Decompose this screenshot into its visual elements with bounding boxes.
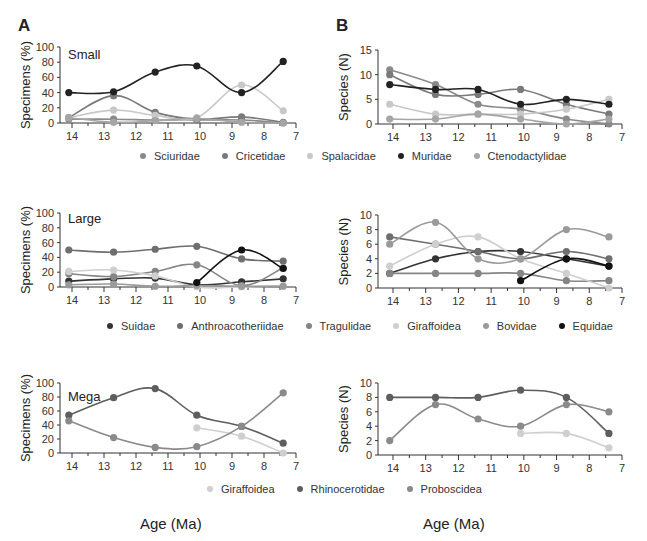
x-tick-label: 13 xyxy=(98,460,110,472)
data-point xyxy=(517,387,524,394)
x-tick-label: 9 xyxy=(229,130,235,142)
x-tick-label: 14 xyxy=(387,462,399,474)
x-tick-label: 14 xyxy=(387,131,399,143)
data-point xyxy=(474,248,481,255)
x-tick-label: 11 xyxy=(162,460,173,472)
x-tick-label: 14 xyxy=(66,294,78,306)
y-tick-label: 4 xyxy=(366,420,372,432)
y-tick-label: 100 xyxy=(36,377,54,389)
data-point xyxy=(517,277,524,284)
x-tick-label: 7 xyxy=(293,460,299,472)
legend-marker-icon xyxy=(474,153,480,159)
legend-item: Anthroacotheriidae xyxy=(177,320,283,332)
data-point xyxy=(193,412,200,419)
y-tick-label: 40 xyxy=(42,87,54,99)
y-tick-label: 0 xyxy=(366,449,372,461)
data-point xyxy=(238,433,245,440)
data-point xyxy=(605,115,612,122)
y-tick-label: 40 xyxy=(42,251,54,263)
legend-item: Giraffoidea xyxy=(207,483,275,495)
legend-marker-icon xyxy=(398,153,404,159)
data-point xyxy=(193,424,200,431)
data-point xyxy=(280,58,287,65)
data-point xyxy=(238,246,245,253)
data-point xyxy=(193,279,200,286)
data-point xyxy=(605,408,612,415)
legend-small: SciuridaeCricetidaeSpalacidaeMuridaeCten… xyxy=(140,150,588,162)
x-tick-label: 9 xyxy=(229,460,235,472)
legend-marker-icon xyxy=(393,323,399,329)
x-tick-label: 10 xyxy=(518,295,530,307)
y-tick-label: 10 xyxy=(360,69,372,81)
data-point xyxy=(152,385,159,392)
x-tick-label: 12 xyxy=(130,294,142,306)
legend-marker-icon xyxy=(307,153,313,159)
data-point xyxy=(65,89,72,96)
y-tick-label: 6 xyxy=(366,406,372,418)
x-tick-label: 8 xyxy=(586,131,592,143)
y-tick-label: 100 xyxy=(36,207,54,219)
y-tick-label: 100 xyxy=(36,41,54,53)
data-point xyxy=(386,71,393,78)
data-point xyxy=(280,275,287,282)
data-point xyxy=(563,226,570,233)
legend-item: Cricetidae xyxy=(222,150,286,162)
data-point xyxy=(110,394,117,401)
legend-marker-icon xyxy=(177,323,183,329)
x-tick-label: 9 xyxy=(554,131,560,143)
x-tick-label: 11 xyxy=(162,130,173,142)
legend-marker-icon xyxy=(483,323,489,329)
data-point xyxy=(474,86,481,93)
y-tick-label: 5 xyxy=(366,93,372,105)
x-tick-label: 13 xyxy=(420,131,432,143)
legend-item: Proboscidea xyxy=(407,483,482,495)
series-line xyxy=(69,96,283,123)
figure-canvas: 0204060801001413121110987Specimens (%)Sm… xyxy=(0,0,647,541)
legend-marker-icon xyxy=(207,486,213,492)
data-point xyxy=(238,119,245,126)
x-tick-label: 8 xyxy=(586,295,592,307)
x-tick-label: 10 xyxy=(518,462,530,474)
series-line xyxy=(390,251,609,274)
x-axis-label-b: Age (Ma) xyxy=(423,515,485,532)
data-point xyxy=(110,106,117,113)
data-point xyxy=(238,81,245,88)
legend-marker-icon xyxy=(306,323,312,329)
data-point xyxy=(280,449,287,456)
x-tick-label: 8 xyxy=(261,130,267,142)
y-tick-label: 6 xyxy=(366,238,372,250)
y-tick-label: 0 xyxy=(48,281,54,293)
x-tick-label: 11 xyxy=(485,295,496,307)
data-point xyxy=(517,86,524,93)
data-point xyxy=(386,270,393,277)
data-point xyxy=(65,114,72,121)
legend-label: Spalacidae xyxy=(321,150,375,162)
y-tick-label: 8 xyxy=(366,224,372,236)
data-point xyxy=(563,430,570,437)
y-tick-label: 2 xyxy=(366,435,372,447)
y-tick-label: 40 xyxy=(42,419,54,431)
legend-label: Giraffoidea xyxy=(221,483,275,495)
data-point xyxy=(386,394,393,401)
y-tick-label: 2 xyxy=(366,267,372,279)
data-point xyxy=(563,270,570,277)
data-point xyxy=(193,115,200,122)
legend-label: Cricetidae xyxy=(236,150,286,162)
data-point xyxy=(517,430,524,437)
data-point xyxy=(280,440,287,447)
data-point xyxy=(432,219,439,226)
y-axis-label: Specimens (%) xyxy=(18,374,33,462)
y-tick-label: 20 xyxy=(42,433,54,445)
legend-marker-icon xyxy=(222,153,228,159)
data-point xyxy=(152,272,159,279)
data-point xyxy=(605,101,612,108)
legend-item: Suidae xyxy=(107,320,155,332)
legend-item: Rhinocerotidae xyxy=(297,483,385,495)
data-point xyxy=(152,444,159,451)
data-point xyxy=(563,277,570,284)
data-point xyxy=(280,389,287,396)
data-point xyxy=(432,241,439,248)
x-axis-label-a: Age (Ma) xyxy=(140,515,202,532)
legend-item: Spalacidae xyxy=(307,150,375,162)
legend-label: Giraffoidea xyxy=(407,320,461,332)
